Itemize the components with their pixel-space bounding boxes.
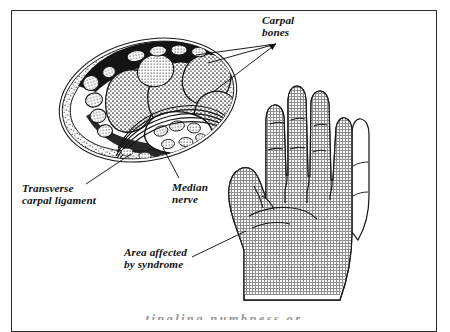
- figure-frame: [11, 10, 437, 332]
- caption-clipped-line: tingling numbness or: [13, 307, 435, 320]
- caption-text: tingling numbness or: [13, 313, 435, 320]
